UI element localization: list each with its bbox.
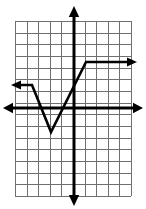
graph-figure [0,0,146,209]
coordinate-plane-svg [0,0,146,209]
